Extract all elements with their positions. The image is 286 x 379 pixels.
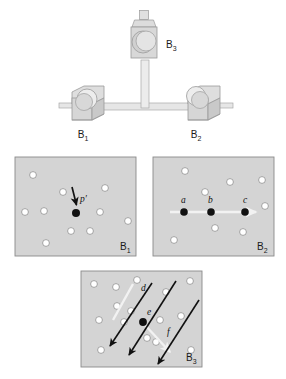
feature-dot: [182, 168, 189, 175]
feature-dot: [87, 228, 94, 235]
feature-dot: [68, 228, 75, 235]
point-label-a: a: [181, 195, 186, 205]
image-panel-b2: a b c B2: [153, 157, 274, 256]
feature-dot: [41, 208, 48, 215]
figure-root: B3 B1 B2 p′ B1: [0, 0, 286, 379]
feature-dot: [259, 177, 266, 184]
feature-dot: [187, 278, 194, 285]
feature-dot: [102, 185, 109, 192]
feature-dot: [43, 240, 50, 247]
feature-dot: [97, 209, 104, 216]
feature-dot: [171, 237, 178, 244]
feature-dot: [22, 209, 29, 216]
feature-dot: [134, 277, 141, 284]
feature-dot: [144, 335, 151, 342]
feature-dot: [262, 203, 269, 210]
filled-dot-c: [241, 208, 249, 216]
image-panel-b1: p′ B1: [15, 157, 136, 256]
apparatus-vertical-post: [141, 60, 149, 108]
filled-dot-e: [139, 318, 147, 326]
feature-dot: [60, 189, 67, 196]
filled-dot-p-prime: [72, 209, 80, 217]
point-label-e: e: [147, 307, 151, 317]
feature-dot: [212, 225, 219, 232]
filled-dot-a: [180, 208, 188, 216]
feature-dot: [157, 317, 164, 324]
feature-dot: [240, 229, 247, 236]
feature-dot: [98, 347, 105, 354]
feature-dot: [96, 317, 103, 324]
image-panel-b3: d e f B3: [81, 271, 202, 367]
feature-dot: [178, 313, 185, 320]
feature-dot: [91, 281, 98, 288]
feature-dot: [113, 284, 120, 291]
point-label-b: b: [208, 195, 213, 205]
point-label-d: d: [141, 283, 146, 293]
feature-dot: [30, 172, 37, 179]
feature-dot: [227, 179, 234, 186]
feature-dot: [125, 218, 132, 225]
filled-dot-b: [207, 208, 215, 216]
point-label-p-prime: p′: [79, 194, 88, 204]
